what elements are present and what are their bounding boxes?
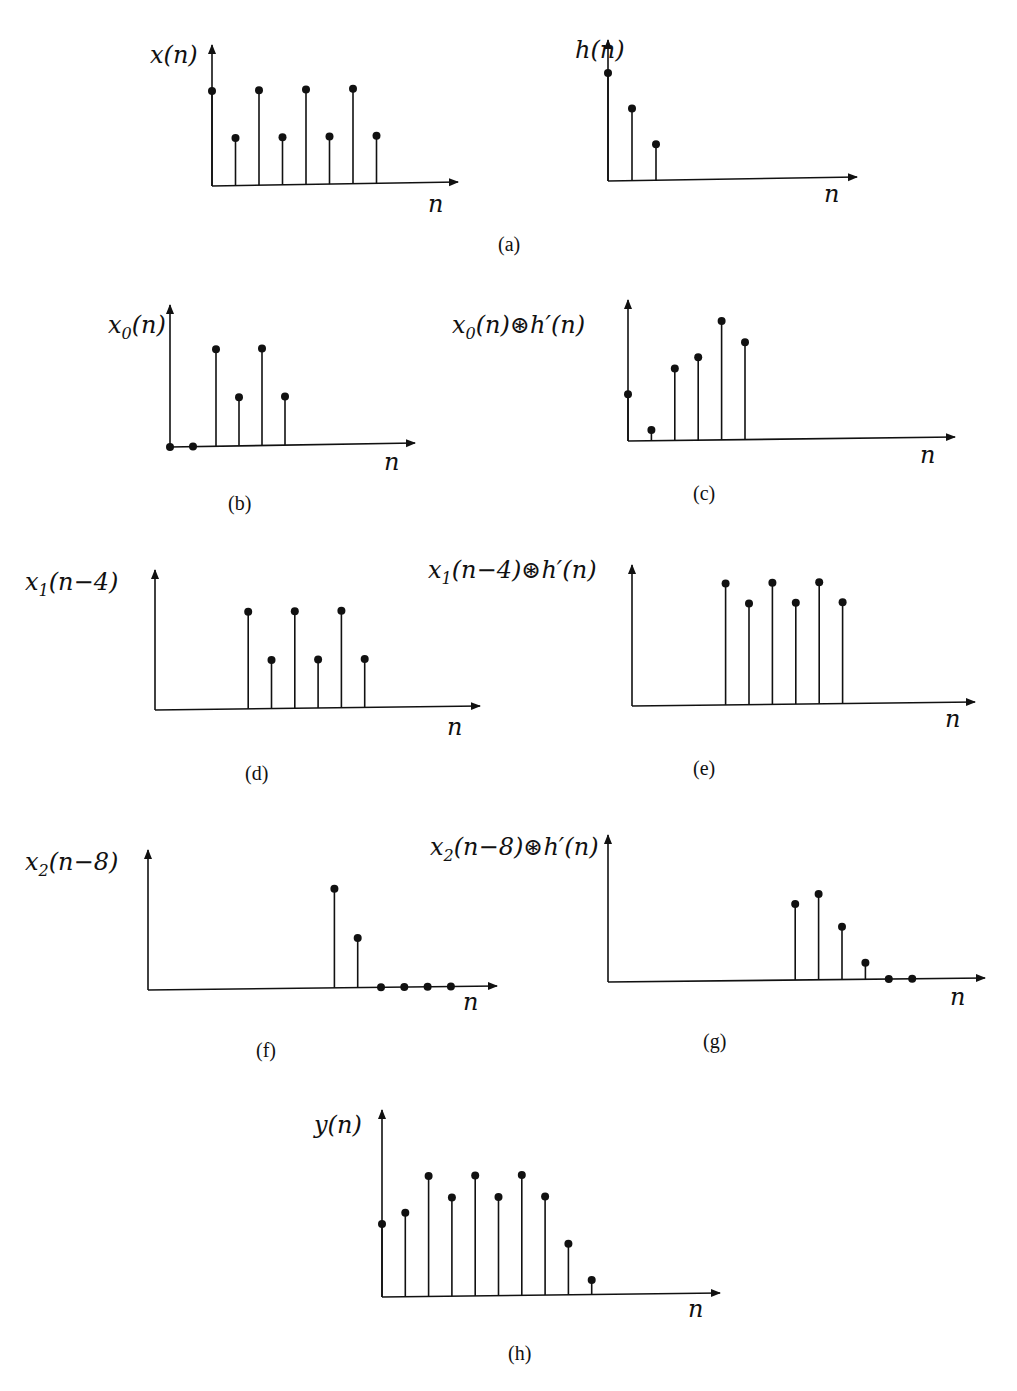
caption-a: (a) [498,233,520,256]
stem-marker [326,133,334,141]
stem-marker [861,959,869,967]
stem-marker [330,885,338,893]
stem-marker [424,983,432,991]
stem-marker [671,364,679,372]
ylabel-x0-conv-h: x0(n)⊛h′(n) [452,311,585,343]
stem-marker [541,1193,549,1201]
stem-marker [694,353,702,361]
stem-marker [815,578,823,586]
stem-marker [647,426,655,434]
stem-marker [448,1194,456,1202]
stem-marker [908,975,916,983]
caption-b: (b) [228,492,251,515]
stem-plot-x1-conv-h [632,565,975,706]
ylabel-x1-shift4: x1(n−4) [25,568,118,600]
x-axis [632,702,975,706]
ylabel-x1-conv-h: x1(n−4)⊛h′(n) [428,556,597,588]
x-axis [628,437,955,441]
stem-marker [354,934,362,942]
stem-marker [471,1171,479,1179]
stem-marker [447,983,455,991]
x-axis [148,986,497,990]
ylabel-x0-n: x0(n) [108,311,166,343]
x-axis [608,978,985,982]
caption-f: (f) [256,1039,276,1062]
ylabel-x-n: x(n) [150,41,198,69]
xlabel-n-d: n [447,713,462,741]
stem-marker [373,132,381,140]
stem-marker [745,599,753,607]
stem-marker [652,140,660,148]
x-axis [212,182,458,186]
stem-marker [337,607,345,615]
stem-plot-h-n [608,40,857,181]
stem-marker [255,86,263,94]
stem-plot-y-n [382,1110,720,1297]
stem-marker [564,1240,572,1248]
caption-e: (e) [693,757,715,780]
stem-marker [768,579,776,587]
xlabel-n-e: n [945,705,960,733]
stem-marker [281,393,289,401]
stem-marker [838,923,846,931]
stem-marker [378,1220,386,1228]
stem-marker [628,105,636,113]
stem-marker [718,317,726,325]
stem-marker [624,390,632,398]
caption-g: (g) [703,1030,726,1053]
xlabel-n-a2: n [824,180,839,208]
stem-marker [377,983,385,991]
stem-marker [401,1209,409,1217]
stem-marker [212,345,220,353]
caption-h: (h) [508,1342,531,1365]
x-axis [170,443,415,447]
stem-marker [208,87,216,95]
xlabel-n-g: n [950,983,965,1011]
ylabel-x2-conv-h: x2(n−8)⊛h′(n) [430,833,599,865]
stem-marker [244,608,252,616]
stem-marker [314,655,322,663]
figure: x(n) n h(n) n (a) x0(n) n (b) x0(n)⊛h′(n… [0,0,1017,1391]
x-axis [608,177,857,181]
stem-marker [189,443,197,451]
caption-d: (d) [245,762,268,785]
ylabel-y-n: y(n) [313,1111,362,1139]
stem-marker [839,598,847,606]
ylabel-x2-shift8: x2(n−8) [25,848,118,880]
stem-marker [425,1172,433,1180]
stem-marker [792,599,800,607]
stem-marker [166,443,174,451]
xlabel-n-h: n [688,1295,703,1323]
caption-c: (c) [693,482,715,505]
stem-plot-x2-shift8 [148,850,497,990]
stem-marker [518,1171,526,1179]
xlabel-n-c: n [920,441,935,469]
stem-marker [232,134,240,142]
stem-plot-x2-conv-h [608,835,985,982]
stem-marker [495,1193,503,1201]
xlabel-n-b: n [384,448,399,476]
stem-plot-x-n [212,45,458,186]
stem-marker [291,607,299,615]
xlabel-n-a1: n [428,190,443,218]
stem-marker [588,1276,596,1284]
stem-marker [722,579,730,587]
ylabel-h-n: h(n) [575,36,625,64]
stem-marker [302,85,310,93]
stem-marker [885,975,893,983]
stem-marker [279,133,287,141]
stem-marker [349,85,357,93]
stem-marker [604,69,612,77]
stem-marker [815,890,823,898]
xlabel-n-f: n [463,988,478,1016]
stem-marker [791,900,799,908]
stem-marker [361,655,369,663]
stem-marker [741,338,749,346]
stem-marker [268,656,276,664]
stem-marker [400,983,408,991]
x-axis [382,1293,720,1297]
stem-marker [258,344,266,352]
stem-plot-x0-n [170,305,415,447]
stem-marker [235,393,243,401]
stem-plot-x1-shift4 [155,570,480,710]
